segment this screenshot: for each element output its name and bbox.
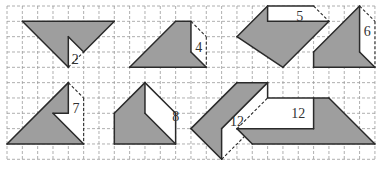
figure-label: 7: [72, 101, 79, 116]
fig-6: 8: [114, 83, 179, 144]
figure-label: 4: [195, 40, 202, 55]
figure-label: 2: [72, 52, 79, 67]
fig-2: 4: [130, 21, 207, 67]
fig-1: 2: [22, 21, 114, 67]
figure-label: 5: [296, 9, 303, 24]
figure-label: 8: [172, 109, 179, 124]
figure-label: 6: [364, 24, 371, 39]
grid-figures-diagram: 2456781212: [0, 0, 381, 175]
figure-label: 12: [291, 106, 305, 121]
